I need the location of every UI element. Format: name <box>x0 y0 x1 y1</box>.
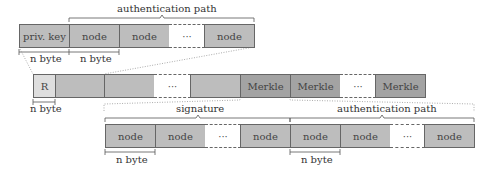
node-cell: node <box>119 24 170 48</box>
n-byte-label: n byte <box>116 154 148 165</box>
n-byte-label: n byte <box>80 53 112 64</box>
ellipsis-cell: ··· <box>390 124 425 148</box>
node-cell: node <box>155 124 206 148</box>
auth-path-brace-label: authentication path <box>337 103 437 114</box>
n-byte-label: n byte <box>301 154 333 165</box>
node-cell: node <box>69 24 120 48</box>
merkle-cell: Merkle <box>375 74 426 98</box>
node-cell: node <box>340 124 391 148</box>
ellipsis-cell: ··· <box>340 74 376 98</box>
ellipsis-cell: ··· <box>154 74 191 98</box>
r-cell: R <box>33 74 56 98</box>
ellipsis-cell: ··· <box>205 124 241 148</box>
merkle-cell: Merkle <box>240 74 291 98</box>
n-byte-label: n byte <box>30 53 62 64</box>
node-cell: node <box>240 124 291 148</box>
ellipsis-cell: ··· <box>169 24 205 48</box>
node-cell: node <box>290 124 341 148</box>
n-byte-label: n byte <box>30 103 62 114</box>
node-cell: node <box>204 24 255 48</box>
block-cell <box>55 74 105 98</box>
block-cell <box>190 74 241 98</box>
priv-key-cell: priv. key <box>19 24 70 48</box>
signature-brace-label: signature <box>176 103 224 114</box>
merkle-cell: Merkle <box>290 74 341 98</box>
block-cell <box>104 74 155 98</box>
auth-path-brace-label: authentication path <box>117 3 217 14</box>
node-cell: node <box>424 124 475 148</box>
node-cell: node <box>105 124 156 148</box>
